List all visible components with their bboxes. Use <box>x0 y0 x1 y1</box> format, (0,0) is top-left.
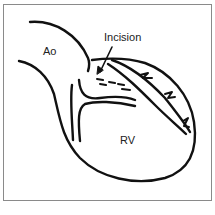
heart-diagram: Ao Incision RV <box>0 0 215 215</box>
figure-frame <box>3 4 212 201</box>
